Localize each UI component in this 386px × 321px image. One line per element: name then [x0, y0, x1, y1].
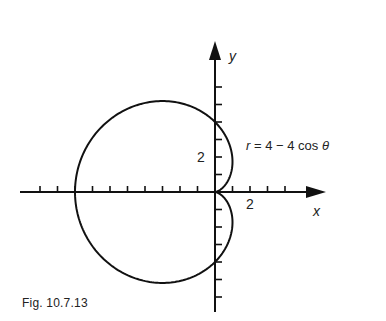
x-axis-label: x	[313, 203, 320, 219]
equation-label: r = 4 − 4 cos θ	[246, 138, 329, 153]
cardioid-plot	[0, 0, 386, 321]
y-tick-label-2: 2	[197, 149, 205, 165]
x-tick-label-2: 2	[246, 196, 254, 212]
axes	[20, 56, 312, 312]
figure-caption: Fig. 10.7.13	[22, 296, 88, 310]
equation-theta: θ	[322, 138, 329, 153]
equation-rhs: = 4 − 4 cos	[254, 138, 322, 153]
y-axis-arrowhead	[209, 41, 221, 60]
y-axis-label: y	[229, 48, 236, 64]
equation-r: r	[246, 138, 250, 153]
x-axis-arrowhead	[306, 186, 326, 198]
